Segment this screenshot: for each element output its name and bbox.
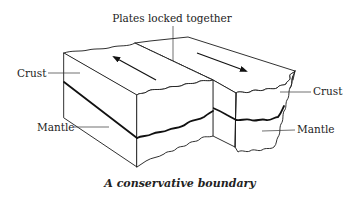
left-crust-label: Crust [17, 67, 47, 79]
left-plate-front-face [137, 80, 213, 167]
diagram-caption: A conservative boundary [103, 177, 257, 190]
plates-locked-label: Plates locked together [112, 12, 233, 24]
left-mantle-label: Mantle [37, 121, 75, 133]
right-crust-label: Crust [313, 85, 343, 97]
right-mantle-label: Mantle [297, 123, 335, 135]
conservative-boundary-diagram: Plates locked together Crust Mantle Crus… [0, 0, 358, 197]
